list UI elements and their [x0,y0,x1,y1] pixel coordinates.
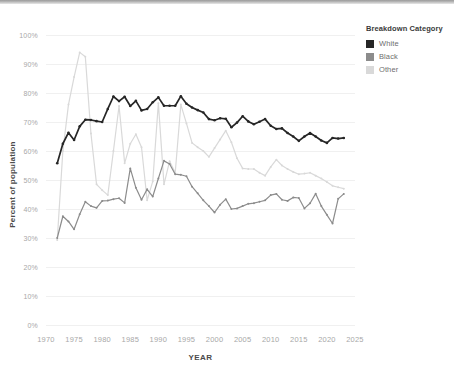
y-axis-tick-label: 90% [23,61,38,68]
data-point [67,131,70,134]
series-line [57,52,344,240]
data-point [230,126,233,129]
data-point [286,132,289,135]
data-point [281,127,284,130]
x-axis-tick-label: 1975 [65,335,83,344]
data-point [208,118,211,121]
data-point [118,100,121,103]
data-point [152,180,154,182]
data-point [236,121,239,124]
y-axis-tick-label: 30% [23,235,38,242]
gridline [46,325,355,326]
data-point [230,208,232,210]
data-point [337,137,340,140]
data-point [202,150,204,152]
series-line [57,161,344,238]
data-point [152,196,154,198]
data-point [141,199,143,201]
series-other [56,51,345,241]
data-point [275,193,277,195]
x-axis-tick-label: 2010 [262,335,280,344]
data-point [202,111,205,114]
legend-swatch-icon [366,66,374,74]
data-point [342,137,345,140]
data-point [146,199,148,201]
data-point [112,150,114,152]
y-axis-tick-label: 70% [23,119,38,126]
data-point [309,202,311,204]
data-point [73,76,75,78]
data-point [169,160,171,162]
data-point [298,173,300,175]
data-point [174,173,176,175]
data-point [219,204,221,206]
data-point [79,51,81,53]
data-point [258,172,260,174]
legend-item-black[interactable]: Black [366,52,452,61]
data-point [242,167,244,169]
data-point [101,189,103,191]
data-point [303,207,305,209]
x-axis-tick-label: 2005 [234,335,252,344]
series-white [56,95,345,165]
data-point [230,141,232,143]
x-axis-tick-label: 1985 [122,335,140,344]
data-point [90,119,93,122]
legend-swatch-icon [366,40,374,48]
data-point [332,185,334,187]
data-point [185,102,188,105]
x-axis-title: YEAR [46,353,355,362]
y-axis-tick-label: 20% [23,264,38,271]
data-point [96,207,98,209]
data-point [79,213,81,215]
data-point [270,166,272,168]
data-point [281,165,283,167]
data-point [84,201,86,203]
y-axis-tick-label: 0% [27,322,38,329]
data-point [129,143,131,145]
y-axis-tick-label: 40% [23,206,38,213]
data-point [315,175,317,177]
data-point [118,105,120,107]
data-point [197,146,199,148]
data-point [242,205,244,207]
data-point [298,140,301,143]
data-point [157,96,160,99]
data-point [320,139,323,142]
x-axis-tick-label: 1995 [178,335,196,344]
data-point [185,122,187,124]
data-point [163,160,165,162]
x-axis-tick-label: 2025 [346,335,364,344]
data-point [224,118,227,121]
data-point [67,104,69,106]
data-point [112,95,115,98]
legend-item-other[interactable]: Other [366,65,452,74]
data-point [269,124,272,127]
legend-item-label: White [379,39,399,48]
series-black [56,160,345,239]
data-point [247,203,249,205]
data-point [219,117,222,120]
x-axis: 1970197519801985199019952000200520102015… [46,335,355,349]
data-point [208,205,210,207]
data-point [129,167,131,169]
data-point [337,198,339,200]
data-point [314,135,317,138]
x-axis-tick-label: 2015 [290,335,308,344]
data-point [275,128,278,131]
data-point [157,102,159,104]
data-point [191,142,193,144]
data-point [180,104,182,106]
data-point [146,108,149,111]
legend-item-white[interactable]: White [366,39,452,48]
x-axis-tick-label: 2000 [206,335,224,344]
data-point [219,138,221,140]
line-chart: 100%90%80%70%60%50%40%30%20%10%0% Percen… [0,4,454,380]
data-point [90,133,92,135]
data-point [298,197,300,199]
x-axis-tick-label: 1980 [93,335,111,344]
data-point [107,194,109,196]
data-point [287,168,289,170]
data-point [124,202,126,204]
data-point [185,175,187,177]
